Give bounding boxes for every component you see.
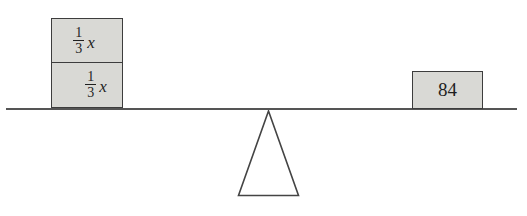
fraction-denominator: 3 bbox=[85, 84, 96, 100]
fraction-one-third: 1 3 bbox=[73, 25, 84, 56]
variable-x: x bbox=[99, 78, 107, 95]
one-third-x-term: 1 3 x bbox=[85, 69, 107, 100]
variable-x: x bbox=[87, 34, 95, 51]
fraction-numerator: 1 bbox=[73, 25, 84, 40]
left-weight-stack: 1 3 x 1 3 x bbox=[51, 18, 123, 108]
weight-block-one-third-x-bottom: 1 3 x bbox=[51, 62, 123, 109]
fraction-numerator: 1 bbox=[85, 69, 96, 84]
one-third-x-term: 1 3 x bbox=[73, 25, 95, 56]
weight-block-84: 84 bbox=[412, 71, 483, 109]
weight-block-one-third-x-top: 1 3 x bbox=[51, 18, 123, 63]
fraction-one-third: 1 3 bbox=[85, 69, 96, 100]
fraction-denominator: 3 bbox=[73, 40, 84, 56]
fulcrum-triangle-icon bbox=[237, 110, 300, 197]
balance-scale-diagram: 1 3 x 1 3 x 84 bbox=[0, 0, 527, 216]
weight-value-label: 84 bbox=[438, 79, 457, 101]
